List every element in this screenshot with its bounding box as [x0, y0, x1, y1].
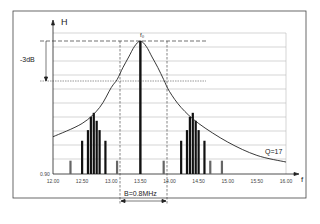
bandwidth-label: B=0.8MHz: [124, 190, 157, 197]
x-tick-label: 12.00: [47, 178, 60, 184]
spectral-line-bar: [198, 130, 200, 174]
spectral-line-bar: [186, 130, 188, 174]
spectral-line-bar: [90, 117, 92, 174]
x-tick-label: 13.50: [134, 178, 147, 184]
spectral-line-bar: [180, 141, 182, 174]
spectral-line-bar: [116, 161, 118, 174]
x-tick-label: 15.00: [221, 178, 234, 184]
spectral-line-bar: [221, 161, 223, 174]
x-tick-label: 14.00: [163, 178, 176, 184]
spectral-line-bar: [189, 117, 191, 174]
spectral-line-bar: [209, 161, 211, 174]
spectral-line-bar: [192, 113, 194, 174]
spectral-line-bar: [69, 161, 71, 174]
q-factor-label: Q=17: [265, 148, 282, 156]
y-axis-label: H: [61, 17, 68, 27]
spectral-line-bar: [104, 141, 106, 174]
x-tick-label: 15.50: [251, 178, 264, 184]
bandwidth-arrow: [121, 200, 166, 203]
spectral-line-bar: [163, 161, 165, 174]
y-min-label: 0.90: [40, 171, 50, 177]
spectral-line-bar: [81, 141, 83, 174]
x-tick-label: 14.50: [192, 178, 205, 184]
spectral-line-bar: [87, 130, 89, 174]
spectral-line-bar: [203, 141, 205, 174]
spectral-line-bar: [96, 121, 98, 174]
spectral-line-bar: [195, 121, 197, 174]
x-tick-label: 16.00: [280, 178, 293, 184]
x-tick-label: 12.50: [76, 178, 89, 184]
chart-frame: [13, 11, 306, 198]
center-frequency-label: f₀: [140, 32, 145, 38]
resonance-chart: H f 0.90 12.0012.5013.0013.5014.0014.501…: [0, 0, 320, 224]
spectral-line-bar: [93, 113, 95, 174]
attenuation-label: -3dB: [20, 56, 35, 63]
x-tick-label: 13.00: [105, 178, 118, 184]
x-tick-labels: 12.0012.5013.0013.5014.0014.5015.0015.50…: [47, 178, 293, 184]
spectral-line-bar: [139, 41, 141, 174]
spectral-line-bar: [99, 130, 101, 174]
